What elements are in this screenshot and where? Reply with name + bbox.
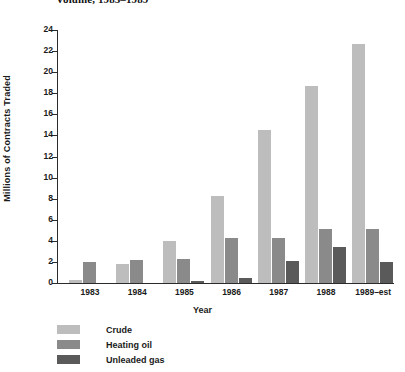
bar-heating-oil[interactable] <box>83 262 96 283</box>
legend-item[interactable]: Heating oil <box>57 337 165 352</box>
y-tick-label: 18 <box>44 87 53 97</box>
bar-heating-oil[interactable] <box>225 238 238 283</box>
bar-crude[interactable] <box>258 130 271 283</box>
bar-crude[interactable] <box>69 280 82 283</box>
y-tick-label: 24 <box>44 24 53 34</box>
chart-legend: CrudeHeating oilUnleaded gas <box>57 322 165 367</box>
y-tick-label: 0 <box>48 277 53 287</box>
y-axis-title: Millions of Contracts Traded <box>2 75 16 202</box>
legend-swatch-crude <box>57 325 80 334</box>
legend-swatch-heating-oil <box>57 340 80 349</box>
y-tick-label: 20 <box>44 66 53 76</box>
bar-unleaded-gas[interactable] <box>380 262 393 283</box>
bar-unleaded-gas[interactable] <box>286 261 299 283</box>
plot-area: 024681012141618202224 198319841985198619… <box>57 30 394 283</box>
x-axis-line <box>57 283 394 284</box>
y-tick-label: 22 <box>44 45 53 55</box>
bar-heating-oil[interactable] <box>366 229 379 283</box>
bar-crude[interactable] <box>352 44 365 283</box>
legend-label: Heating oil <box>106 340 152 350</box>
y-tick-label: 12 <box>44 151 53 161</box>
legend-swatch-unleaded-gas <box>57 355 80 364</box>
x-axis-title: Year <box>0 305 405 315</box>
y-tick-label: 16 <box>44 108 53 118</box>
bar-heating-oil[interactable] <box>130 260 143 283</box>
bar-unleaded-gas[interactable] <box>191 281 204 283</box>
y-tick-label: 8 <box>48 193 53 203</box>
y-tick-label: 10 <box>44 172 53 182</box>
bar-crude[interactable] <box>211 196 224 283</box>
bar-crude[interactable] <box>305 86 318 283</box>
bar-crude[interactable] <box>163 241 176 283</box>
legend-item[interactable]: Crude <box>57 322 165 337</box>
y-tick-label: 6 <box>48 214 53 224</box>
legend-label: Crude <box>106 325 132 335</box>
bar-heating-oil[interactable] <box>272 238 285 283</box>
y-tick-label: 14 <box>44 129 53 139</box>
bar-unleaded-gas[interactable] <box>333 247 346 283</box>
legend-item[interactable]: Unleaded gas <box>57 352 165 367</box>
bar-heating-oil[interactable] <box>319 229 332 283</box>
bar-heating-oil[interactable] <box>177 259 190 283</box>
chart-title: Volume, 1983–1989 <box>56 0 148 5</box>
legend-label: Unleaded gas <box>106 355 165 365</box>
bar-unleaded-gas[interactable] <box>239 278 252 283</box>
y-tick-label: 2 <box>48 256 53 266</box>
y-tick-label: 4 <box>48 235 53 245</box>
bar-crude[interactable] <box>116 264 129 284</box>
x-tick-label: 1989–est <box>338 287 405 297</box>
